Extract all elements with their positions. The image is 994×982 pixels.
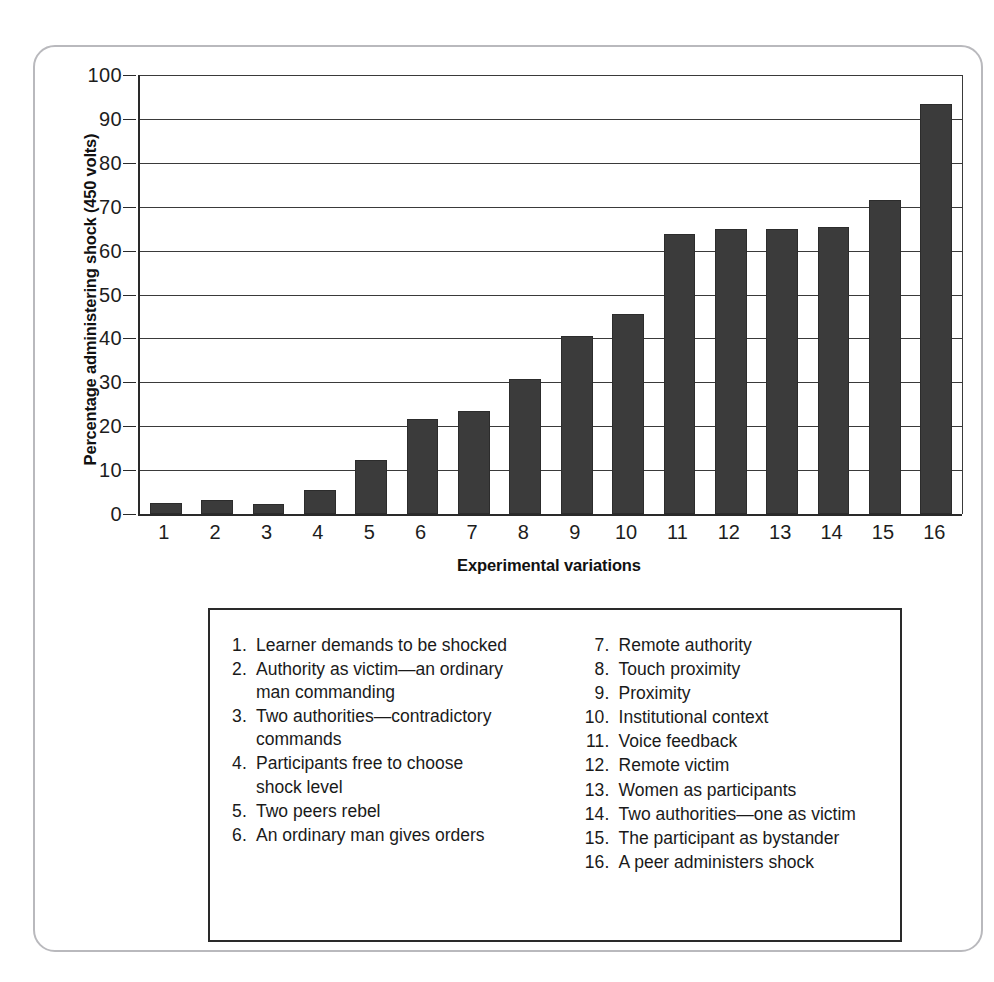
bar-13 bbox=[766, 229, 798, 514]
x-axis-title: Experimental variations bbox=[138, 556, 960, 575]
gridline bbox=[140, 75, 962, 76]
x-tick-label: 5 bbox=[364, 521, 375, 544]
legend-item: 2.Authority as victim—an ordinary man co… bbox=[222, 658, 583, 704]
legend-item: 11.Voice feedback bbox=[585, 730, 900, 753]
legend-item: 6.An ordinary man gives orders bbox=[222, 824, 583, 847]
legend-item: 1.Learner demands to be shocked bbox=[222, 634, 583, 657]
legend-item: 14.Two authorities—one as victim bbox=[585, 803, 900, 826]
x-tick-label: 7 bbox=[466, 521, 477, 544]
x-tick-label: 11 bbox=[667, 521, 688, 544]
y-tick-label: 90 bbox=[80, 107, 122, 130]
legend-item-number: 16. bbox=[585, 851, 619, 874]
legend-item-label: Women as participants bbox=[619, 779, 900, 802]
x-tick-label: 9 bbox=[569, 521, 580, 544]
x-tick-label: 15 bbox=[872, 521, 894, 544]
legend-item-number: 12. bbox=[585, 754, 619, 777]
legend-item-label: Proximity bbox=[619, 682, 900, 705]
bar-7 bbox=[458, 411, 490, 514]
legend-item: 8.Touch proximity bbox=[585, 658, 900, 681]
legend-item-number: 5. bbox=[222, 800, 256, 823]
bar-9 bbox=[561, 336, 593, 514]
legend-item-number: 7. bbox=[585, 634, 619, 657]
legend-item: 7.Remote authority bbox=[585, 634, 900, 657]
y-tick-label: 100 bbox=[80, 64, 122, 87]
y-tick-mark bbox=[123, 295, 136, 296]
y-tick-label: 10 bbox=[80, 459, 122, 482]
y-tick-mark bbox=[123, 338, 136, 339]
x-tick-label: 2 bbox=[210, 521, 221, 544]
bar-14 bbox=[818, 227, 850, 514]
legend-item: 15.The participant as bystander bbox=[585, 827, 900, 850]
legend-item-number: 14. bbox=[585, 803, 619, 826]
gridline bbox=[140, 207, 962, 208]
bar-chart: Percentage administering shock (450 volt… bbox=[0, 0, 994, 600]
legend-item-number: 10. bbox=[585, 706, 619, 729]
bar-2 bbox=[201, 500, 233, 514]
legend-item-label: The participant as bystander bbox=[619, 827, 900, 850]
bar-4 bbox=[304, 490, 336, 514]
y-tick-label: 30 bbox=[80, 371, 122, 394]
legend-item-label: Remote authority bbox=[619, 634, 900, 657]
plot-right-edge bbox=[962, 75, 963, 514]
bar-1 bbox=[150, 503, 182, 514]
legend-column-right: 7.Remote authority8.Touch proximity9.Pro… bbox=[583, 634, 900, 940]
gridline bbox=[140, 163, 962, 164]
legend-item-number: 4. bbox=[222, 752, 256, 775]
y-tick-label: 40 bbox=[80, 327, 122, 350]
legend-item-label: Learner demands to be shocked bbox=[256, 634, 508, 657]
y-tick-label: 50 bbox=[80, 283, 122, 306]
x-tick-label: 3 bbox=[261, 521, 272, 544]
legend-item-label: An ordinary man gives orders bbox=[256, 824, 508, 847]
legend-item: 10.Institutional context bbox=[585, 706, 900, 729]
legend-item: 16.A peer administers shock bbox=[585, 851, 900, 874]
legend-item-label: A peer administers shock bbox=[619, 851, 900, 874]
x-axis-ticks: 12345678910111213141516 bbox=[138, 521, 960, 555]
legend-item-label: Remote victim bbox=[619, 754, 900, 777]
legend-item: 4.Participants free to choose shock leve… bbox=[222, 752, 583, 798]
bar-8 bbox=[509, 379, 541, 514]
legend-item-label: Two peers rebel bbox=[256, 800, 508, 823]
y-tick-mark bbox=[123, 470, 136, 471]
x-tick-label: 14 bbox=[820, 521, 842, 544]
legend-item-label: Authority as victim—an ordinary man comm… bbox=[256, 658, 508, 704]
y-tick-mark bbox=[123, 382, 136, 383]
y-tick-mark bbox=[123, 514, 136, 515]
legend-item-label: Participants free to choose shock level bbox=[256, 752, 508, 798]
y-tick-label: 80 bbox=[80, 151, 122, 174]
y-tick-label: 0 bbox=[80, 503, 122, 526]
legend-column-left: 1.Learner demands to be shocked2.Authori… bbox=[210, 634, 583, 940]
y-tick-mark bbox=[123, 251, 136, 252]
bar-5 bbox=[355, 460, 387, 514]
x-tick-label: 10 bbox=[615, 521, 637, 544]
x-tick-label: 12 bbox=[718, 521, 740, 544]
y-tick-label: 60 bbox=[80, 239, 122, 262]
x-tick-label: 8 bbox=[518, 521, 529, 544]
legend-item: 12.Remote victim bbox=[585, 754, 900, 777]
x-tick-label: 13 bbox=[769, 521, 791, 544]
legend-item-number: 3. bbox=[222, 705, 256, 728]
legend-item-number: 6. bbox=[222, 824, 256, 847]
y-tick-mark bbox=[123, 426, 136, 427]
legend-item-number: 1. bbox=[222, 634, 256, 657]
legend-item-number: 11. bbox=[585, 730, 619, 753]
y-tick-mark bbox=[123, 119, 136, 120]
legend-item-label: Touch proximity bbox=[619, 658, 900, 681]
legend-item-number: 2. bbox=[222, 658, 256, 681]
gridline bbox=[140, 119, 962, 120]
legend-box: 1.Learner demands to be shocked2.Authori… bbox=[208, 608, 902, 942]
x-tick-label: 1 bbox=[158, 521, 169, 544]
x-tick-label: 6 bbox=[415, 521, 426, 544]
legend-columns: 1.Learner demands to be shocked2.Authori… bbox=[210, 610, 900, 940]
bar-6 bbox=[407, 419, 439, 514]
bar-16 bbox=[920, 104, 952, 514]
y-tick-mark bbox=[123, 75, 136, 76]
y-tick-label: 20 bbox=[80, 415, 122, 438]
y-tick-label: 70 bbox=[80, 195, 122, 218]
legend-item-label: Two authorities—one as victim bbox=[619, 803, 900, 826]
bar-15 bbox=[869, 200, 901, 514]
bar-10 bbox=[612, 314, 644, 514]
bar-12 bbox=[715, 229, 747, 514]
legend-item: 13.Women as participants bbox=[585, 779, 900, 802]
x-tick-label: 16 bbox=[923, 521, 945, 544]
x-tick-label: 4 bbox=[312, 521, 323, 544]
